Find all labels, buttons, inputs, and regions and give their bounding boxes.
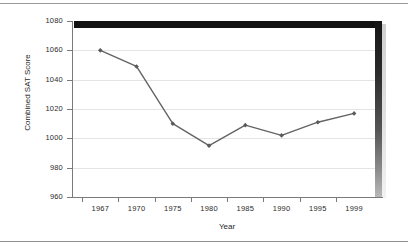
sat-score-line-chart: 96098010001020104010601080 1967197019751… (0, 0, 408, 248)
data-point-marker (352, 111, 357, 116)
data-point-marker (316, 120, 321, 125)
data-point-marker (98, 48, 103, 53)
series-markers (98, 48, 356, 148)
data-series-layer (0, 0, 408, 248)
data-point-marker (279, 133, 284, 138)
series-line (100, 50, 354, 145)
